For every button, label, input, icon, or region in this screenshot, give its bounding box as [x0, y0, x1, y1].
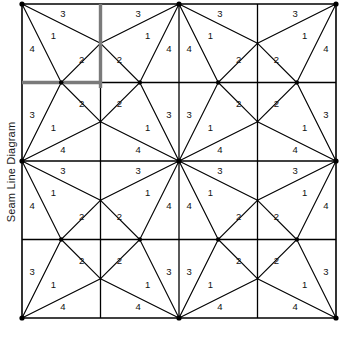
region-label-2-0-3: 2: [79, 211, 84, 222]
region-label-0-1-1: 3: [136, 8, 141, 19]
seam-cell-0-0-ray-a: [22, 4, 61, 83]
seam-line-canvas: 4312431243124312341234123412341243124312…: [0, 0, 342, 344]
vertex-major-4-2: [176, 315, 181, 320]
region-label-0-2-0: 4: [187, 43, 192, 54]
region-label-1-1-1: 4: [136, 144, 141, 155]
region-label-1-1-0: 3: [166, 109, 171, 120]
region-label-0-1-0: 4: [166, 43, 171, 54]
region-label-2-3-2: 1: [302, 187, 307, 198]
region-label-3-2-3: 2: [236, 255, 241, 266]
region-label-3-3-0: 3: [323, 266, 328, 277]
region-label-1-3-2: 1: [302, 122, 307, 133]
region-label-2-2-1: 3: [217, 165, 222, 176]
vertex-mid-3-0: [59, 237, 63, 241]
region-label-0-0-0: 4: [30, 43, 35, 54]
region-label-3-1-1: 4: [136, 301, 141, 312]
region-label-2-1-3: 2: [117, 211, 122, 222]
region-label-1-3-1: 4: [293, 144, 298, 155]
region-label-2-2-0: 4: [187, 200, 192, 211]
region-label-0-3-0: 4: [323, 43, 328, 54]
vertex-major-4-4: [333, 315, 338, 320]
region-label-0-2-3: 2: [236, 54, 241, 65]
region-label-0-1-2: 1: [145, 30, 150, 41]
region-label-1-0-1: 4: [60, 144, 65, 155]
region-label-3-3-1: 4: [293, 301, 298, 312]
region-label-2-2-3: 2: [236, 211, 241, 222]
region-label-2-0-2: 1: [51, 187, 56, 198]
region-label-1-2-3: 2: [236, 98, 241, 109]
region-label-1-1-2: 1: [145, 122, 150, 133]
region-label-2-1-1: 3: [136, 165, 141, 176]
region-label-3-0-0: 3: [30, 266, 35, 277]
region-label-2-1-2: 1: [145, 187, 150, 198]
region-label-2-0-1: 3: [60, 165, 65, 176]
seam-cell-0-3-ray-a: [297, 4, 336, 83]
vertex-major-2-0: [19, 158, 24, 163]
vertex-major-0-4: [333, 1, 338, 6]
vertex-mid-1-3: [295, 80, 299, 84]
seam-line-diagram-root: Seam Line Diagram 4312431243124312341234…: [0, 0, 342, 344]
region-label-3-0-3: 2: [79, 255, 84, 266]
region-label-2-3-3: 2: [274, 211, 279, 222]
seam-cell-0-1-ray-a: [140, 4, 179, 83]
vertex-mid-1-0: [59, 80, 63, 84]
seam-cell-0-2-ray-a: [179, 4, 218, 83]
region-label-2-1-0: 4: [166, 200, 171, 211]
vertex-mid-3-3: [295, 237, 299, 241]
region-label-2-0-0: 4: [30, 200, 35, 211]
region-label-3-2-2: 1: [208, 279, 213, 290]
seam-cell-2-1-ray-a: [140, 161, 179, 240]
vertex-major-4-0: [19, 315, 24, 320]
region-label-3-0-1: 4: [60, 301, 65, 312]
region-label-3-3-3: 2: [274, 255, 279, 266]
region-label-0-2-2: 1: [208, 30, 213, 41]
vertex-mid-3-1: [138, 237, 142, 241]
region-label-0-3-1: 3: [293, 8, 298, 19]
region-label-0-1-3: 2: [117, 54, 122, 65]
region-label-1-0-3: 2: [79, 98, 84, 109]
region-label-0-0-1: 3: [60, 8, 65, 19]
region-label-1-0-0: 3: [30, 109, 35, 120]
vertex-major-0-2: [176, 1, 181, 6]
region-label-3-1-0: 3: [166, 266, 171, 277]
vertex-major-2-4: [333, 158, 338, 163]
region-label-2-2-2: 1: [208, 187, 213, 198]
seam-cell-2-3-ray-a: [297, 161, 336, 240]
region-label-3-2-0: 3: [187, 266, 192, 277]
region-label-3-0-2: 1: [51, 279, 56, 290]
seam-cell-2-2-ray-a: [179, 161, 218, 240]
region-label-1-2-0: 3: [187, 109, 192, 120]
region-label-1-2-1: 4: [217, 144, 222, 155]
region-label-2-3-1: 3: [293, 165, 298, 176]
region-label-3-1-2: 1: [145, 279, 150, 290]
region-label-3-2-1: 4: [217, 301, 222, 312]
region-label-0-0-3: 2: [79, 54, 84, 65]
region-label-0-3-2: 1: [302, 30, 307, 41]
region-label-1-3-3: 2: [274, 98, 279, 109]
vertex-major-0-0: [19, 1, 24, 6]
vertex-mid-1-1: [138, 80, 142, 84]
region-label-1-3-0: 3: [323, 109, 328, 120]
region-label-1-1-3: 2: [117, 98, 122, 109]
region-label-0-2-1: 3: [217, 8, 222, 19]
vertex-mid-1-2: [216, 80, 220, 84]
region-label-0-3-3: 2: [274, 54, 279, 65]
region-label-1-2-2: 1: [208, 122, 213, 133]
region-label-3-1-3: 2: [117, 255, 122, 266]
vertex-major-2-2: [176, 158, 181, 163]
region-label-2-3-0: 4: [323, 200, 328, 211]
seam-cell-2-0-ray-a: [22, 161, 61, 240]
region-label-1-0-2: 1: [51, 122, 56, 133]
region-label-0-0-2: 1: [51, 30, 56, 41]
region-label-3-3-2: 1: [302, 279, 307, 290]
vertex-mid-3-2: [216, 237, 220, 241]
